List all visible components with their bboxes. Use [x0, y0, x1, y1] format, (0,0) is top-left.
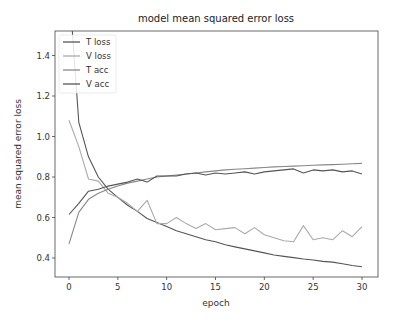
x-tick-label: 20 — [259, 282, 270, 292]
legend-label: V loss — [86, 51, 112, 61]
x-tick-label: 25 — [308, 282, 319, 292]
y-tick-label: 0.6 — [36, 213, 50, 223]
y-tick-label: 1.0 — [36, 132, 50, 142]
legend-label: T loss — [85, 37, 111, 47]
y-axis: 0.40.60.81.01.21.4 — [36, 51, 55, 264]
x-tick-label: 15 — [210, 282, 221, 292]
y-tick-label: 1.4 — [36, 51, 50, 61]
chart: model mean squared error loss 0510152025… — [0, 0, 397, 324]
x-tick-label: 0 — [66, 282, 71, 292]
y-tick-label: 0.4 — [36, 253, 50, 263]
legend-label: V acc — [86, 79, 109, 89]
y-tick-label: 1.2 — [36, 91, 50, 101]
series-line-t-acc — [69, 163, 362, 243]
legend: T lossV lossT accV acc — [59, 35, 116, 93]
chart-title: model mean squared error loss — [138, 13, 294, 24]
x-tick-label: 30 — [357, 282, 368, 292]
line-chart: model mean squared error loss 0510152025… — [0, 0, 397, 324]
y-axis-label: mean squared error loss — [13, 99, 23, 209]
x-tick-label: 10 — [161, 282, 172, 292]
x-axis-label: epoch — [202, 298, 229, 308]
y-tick-label: 0.8 — [36, 172, 50, 182]
x-axis: 051015202530 — [66, 277, 367, 292]
x-tick-label: 5 — [115, 282, 120, 292]
series-line-v-acc — [69, 169, 362, 215]
legend-label: T acc — [85, 65, 109, 75]
series-line-v-loss — [69, 120, 362, 242]
